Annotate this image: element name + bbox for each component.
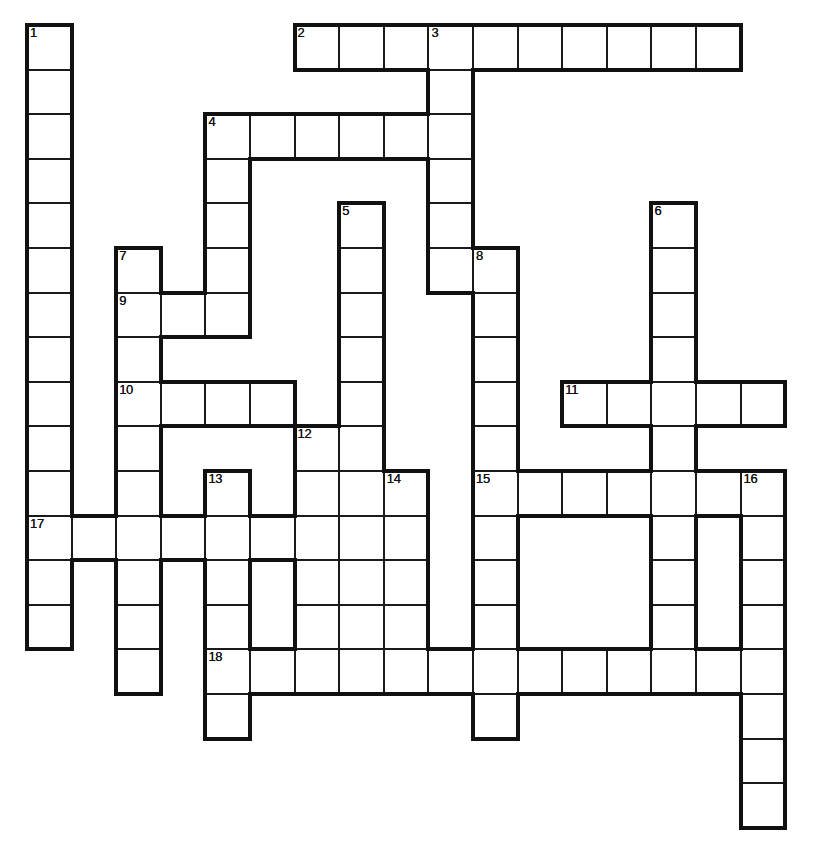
crossword-cell[interactable] [250,114,295,159]
crossword-cell[interactable] [339,471,384,516]
crossword-cell[interactable] [339,25,384,70]
crossword-cell[interactable] [741,694,786,739]
crossword-cell[interactable] [518,25,563,70]
crossword-cell[interactable] [428,159,473,204]
crossword-cell[interactable]: 11 [562,382,607,427]
crossword-cell[interactable] [473,516,518,561]
crossword-cell[interactable] [27,248,72,293]
crossword-cell[interactable]: 17 [27,516,72,561]
crossword-cell[interactable] [339,605,384,650]
crossword-cell[interactable] [651,382,696,427]
crossword-cell[interactable] [339,337,384,382]
crossword-cell[interactable]: 2 [295,25,340,70]
crossword-cell[interactable] [339,426,384,471]
crossword-cell[interactable] [562,649,607,694]
crossword-cell[interactable] [473,293,518,338]
crossword-cell[interactable] [205,560,250,605]
crossword-cell[interactable] [651,605,696,650]
crossword-cell[interactable] [473,25,518,70]
crossword-cell[interactable]: 16 [741,471,786,516]
crossword-cell[interactable] [295,516,340,561]
crossword-cell[interactable]: 9 [116,293,161,338]
crossword-cell[interactable] [473,560,518,605]
crossword-cell[interactable] [607,649,652,694]
crossword-cell[interactable]: 3 [428,25,473,70]
crossword-cell[interactable] [696,25,741,70]
crossword-cell[interactable] [741,783,786,828]
crossword-cell[interactable] [27,605,72,650]
crossword-cell[interactable] [205,248,250,293]
crossword-cell[interactable] [651,337,696,382]
crossword-cell[interactable] [384,516,429,561]
crossword-cell[interactable] [205,203,250,248]
crossword-cell[interactable] [72,516,117,561]
crossword-cell[interactable] [741,516,786,561]
crossword-cell[interactable] [741,560,786,605]
crossword-cell[interactable] [161,516,206,561]
crossword-cell[interactable] [473,337,518,382]
crossword-cell[interactable] [651,248,696,293]
crossword-cell[interactable] [116,560,161,605]
crossword-cell[interactable] [116,516,161,561]
crossword-cell[interactable]: 15 [473,471,518,516]
crossword-cell[interactable]: 7 [116,248,161,293]
crossword-cell[interactable] [651,516,696,561]
crossword-cell[interactable] [741,605,786,650]
crossword-cell[interactable] [473,649,518,694]
crossword-cell[interactable] [562,471,607,516]
crossword-cell[interactable] [384,114,429,159]
crossword-cell[interactable] [741,649,786,694]
crossword-cell[interactable] [741,739,786,784]
crossword-cell[interactable] [651,426,696,471]
crossword-cell[interactable] [562,25,607,70]
crossword-cell[interactable] [651,25,696,70]
crossword-cell[interactable] [473,694,518,739]
crossword-cell[interactable] [205,516,250,561]
crossword-cell[interactable] [428,70,473,115]
crossword-cell[interactable] [473,605,518,650]
crossword-cell[interactable] [295,114,340,159]
crossword-cell[interactable] [696,471,741,516]
crossword-cell[interactable]: 1 [27,25,72,70]
crossword-cell[interactable] [27,114,72,159]
crossword-cell[interactable] [205,694,250,739]
crossword-cell[interactable] [339,293,384,338]
crossword-cell[interactable] [339,382,384,427]
crossword-cell[interactable]: 4 [205,114,250,159]
crossword-cell[interactable] [27,70,72,115]
crossword-cell[interactable] [651,293,696,338]
crossword-cell[interactable] [518,471,563,516]
crossword-cell[interactable] [651,471,696,516]
crossword-cell[interactable] [295,605,340,650]
crossword-cell[interactable]: 14 [384,471,429,516]
crossword-cell[interactable] [161,293,206,338]
crossword-cell[interactable]: 8 [473,248,518,293]
crossword-cell[interactable] [651,649,696,694]
crossword-cell[interactable] [205,293,250,338]
crossword-cell[interactable] [428,248,473,293]
crossword-cell[interactable] [607,382,652,427]
crossword-cell[interactable] [741,382,786,427]
crossword-cell[interactable] [428,203,473,248]
crossword-cell[interactable] [696,649,741,694]
crossword-cell[interactable]: 5 [339,203,384,248]
crossword-cell[interactable] [651,560,696,605]
crossword-cell[interactable] [339,248,384,293]
crossword-cell[interactable] [473,382,518,427]
crossword-cell[interactable] [428,649,473,694]
crossword-cell[interactable] [116,605,161,650]
crossword-cell[interactable] [607,25,652,70]
crossword-cell[interactable] [339,560,384,605]
crossword-cell[interactable] [295,649,340,694]
crossword-cell[interactable] [116,471,161,516]
crossword-cell[interactable]: 6 [651,203,696,248]
crossword-cell[interactable] [295,560,340,605]
crossword-cell[interactable] [250,649,295,694]
crossword-cell[interactable] [116,426,161,471]
crossword-cell[interactable] [295,471,340,516]
crossword-cell[interactable] [27,159,72,204]
crossword-cell[interactable] [205,159,250,204]
crossword-cell[interactable] [339,516,384,561]
crossword-cell[interactable] [696,382,741,427]
crossword-cell[interactable] [205,605,250,650]
